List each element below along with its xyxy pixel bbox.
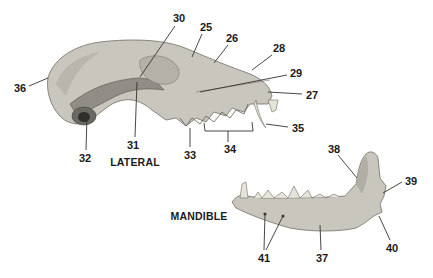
label-33: 33 <box>184 150 196 161</box>
label-36: 36 <box>14 83 26 94</box>
lateral-skull <box>47 40 278 128</box>
label-29: 29 <box>290 68 302 79</box>
leader-line <box>214 45 228 63</box>
leader-line <box>266 124 288 127</box>
label-31: 31 <box>127 140 139 151</box>
leader-line <box>29 78 48 86</box>
auditory-meatus <box>78 112 90 122</box>
label-40: 40 <box>386 243 398 254</box>
label-39: 39 <box>405 176 417 187</box>
label-38: 38 <box>328 144 340 155</box>
leader-line <box>268 92 302 94</box>
skull-diagram: 2526272829303132333435363738394041 LATER… <box>0 0 433 278</box>
label-34: 34 <box>224 144 236 155</box>
incisors <box>268 100 278 112</box>
label-25: 25 <box>200 22 212 33</box>
leader-line <box>252 55 272 70</box>
label-41: 41 <box>258 253 270 264</box>
leader-line <box>338 155 357 178</box>
label-30: 30 <box>173 13 185 24</box>
label-37: 37 <box>316 253 328 264</box>
view-title-mandible: MANDIBLE <box>170 210 227 222</box>
label-35: 35 <box>292 123 304 134</box>
bracket-34 <box>204 122 253 131</box>
lower-cheek-teeth <box>254 186 340 198</box>
label-32: 32 <box>79 153 91 164</box>
label-27: 27 <box>306 90 318 101</box>
skull-illustration <box>0 0 433 278</box>
mandible-bone <box>232 152 386 231</box>
lower-canine <box>240 182 248 198</box>
leader-line <box>379 216 390 240</box>
label-28: 28 <box>273 43 285 54</box>
label-26: 26 <box>226 33 238 44</box>
view-title-lateral: LATERAL <box>110 156 160 168</box>
